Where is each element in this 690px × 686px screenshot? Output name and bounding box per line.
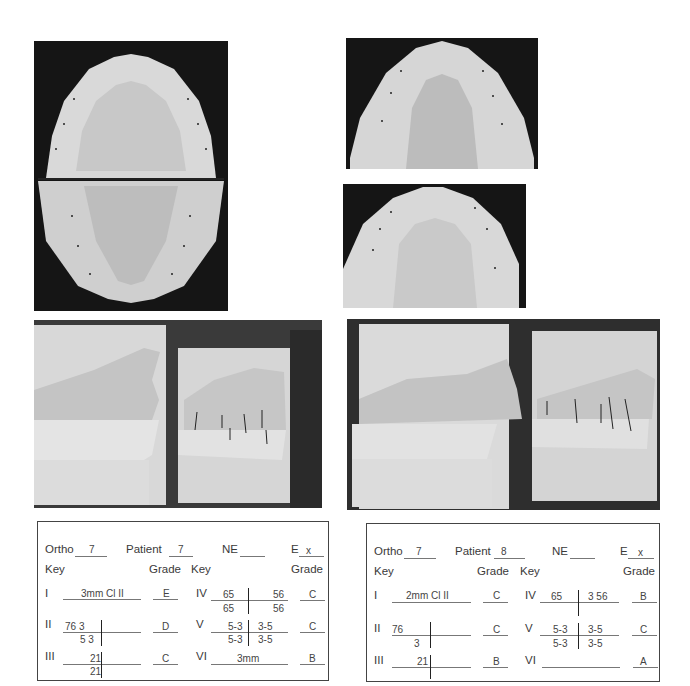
row-ii-grade: D	[162, 622, 169, 632]
e-label: E	[291, 544, 299, 556]
e-value: x	[638, 548, 643, 558]
grade-label-right: Grade	[291, 564, 323, 576]
row-numeral-v: V	[196, 619, 204, 631]
photo-lateral-patient8	[347, 319, 660, 510]
row-numeral-iii: III	[45, 651, 55, 663]
e-label: E	[620, 546, 628, 558]
row-ii-grade: C	[493, 625, 500, 635]
key-label-left: Key	[374, 566, 394, 578]
row-v-upper-right: 3-5	[588, 625, 602, 635]
row-iv-upper-right: 56	[273, 590, 284, 600]
key-label-right: Key	[520, 566, 540, 578]
dental-cast-image	[34, 41, 228, 311]
photo-occlusal-patient7	[34, 41, 228, 311]
row-iv-lower-left: 65	[223, 604, 234, 614]
grade-label-left: Grade	[477, 566, 509, 578]
patient-value: 7	[178, 545, 184, 555]
row-v-lower-right: 3-5	[588, 639, 602, 649]
row-v-grade: C	[309, 622, 316, 632]
row-v-lower-left: 5-3	[228, 635, 242, 645]
row-numeral-ii: II	[374, 623, 380, 635]
row-numeral-iv: IV	[525, 590, 536, 602]
ortho-label: Ortho	[45, 544, 74, 556]
row-v-lower-left: 5-3	[553, 639, 567, 649]
key-label-left: Key	[45, 564, 65, 576]
ne-label: NE	[552, 546, 568, 558]
row-iv-grade: C	[309, 590, 316, 600]
row-iv-upper-left: 65	[551, 592, 562, 602]
key-label-right: Key	[191, 564, 211, 576]
row-ii-upper-left: 76 3	[65, 622, 84, 632]
e-value: x	[306, 546, 311, 556]
row-numeral-vi: VI	[525, 655, 536, 667]
row-vi-grade: B	[309, 654, 316, 664]
row-i-value: 3mm Cl II	[81, 589, 124, 599]
row-v-upper-left: 5-3	[228, 622, 242, 632]
patient-label: Patient	[455, 546, 491, 558]
row-v-upper-right: 3-5	[258, 622, 272, 632]
row-ii-upper-left: 76	[392, 625, 403, 635]
row-i-grade: E	[163, 589, 170, 599]
row-iv-lower-right: 56	[273, 604, 284, 614]
row-ii-lower-left: 5 3	[80, 635, 94, 645]
row-iii-grade: B	[493, 657, 500, 667]
ortho-label: Ortho	[374, 546, 403, 558]
row-iv-grade: B	[640, 592, 647, 602]
row-numeral-ii: II	[45, 619, 51, 631]
photo-occlusal-upper-patient8	[343, 184, 526, 308]
dental-cast-image	[346, 38, 538, 169]
row-numeral-iv: IV	[196, 588, 207, 600]
photo-lateral-patient7	[34, 320, 322, 508]
patient-label: Patient	[126, 544, 162, 556]
row-vi-grade: A	[640, 657, 647, 667]
row-ii-lower-left: 3	[414, 639, 420, 649]
row-i-value: 2mm Cl II	[406, 591, 449, 601]
grade-label-right: Grade	[623, 566, 655, 578]
patient-value: 8	[501, 547, 507, 557]
ortho-value: 7	[89, 545, 95, 555]
row-numeral-vi: VI	[196, 651, 207, 663]
row-vi-value: 3mm	[237, 654, 259, 664]
row-v-lower-right: 3-5	[258, 635, 272, 645]
row-iii-lower-left: 21	[90, 667, 101, 677]
dental-cast-image	[34, 320, 322, 508]
grade-label-left: Grade	[149, 564, 181, 576]
row-v-upper-left: 5-3	[553, 625, 567, 635]
row-v-grade: C	[640, 625, 647, 635]
grading-form-patient7: Ortho 7 Patient 7 NE E x Key Grade Key G…	[37, 521, 329, 681]
ortho-value: 7	[416, 547, 422, 557]
row-iii-upper-left: 21	[417, 657, 428, 667]
row-iv-upper-right: 3 56	[588, 592, 607, 602]
row-numeral-v: V	[525, 623, 533, 635]
row-iii-upper-left: 21	[90, 654, 101, 664]
row-numeral-i: I	[374, 590, 377, 602]
row-iv-upper-left: 65	[223, 590, 234, 600]
row-numeral-i: I	[45, 588, 48, 600]
ne-label: NE	[222, 544, 238, 556]
row-iii-grade: C	[162, 654, 169, 664]
dental-cast-image	[343, 184, 526, 308]
grading-form-patient8: Ortho 7 Patient 8 NE E x Key Grade Key G…	[366, 523, 660, 682]
dental-cast-image	[347, 319, 660, 510]
photo-occlusal-lower-patient8	[346, 38, 538, 169]
row-numeral-iii: III	[374, 655, 384, 667]
row-i-grade: C	[493, 591, 500, 601]
